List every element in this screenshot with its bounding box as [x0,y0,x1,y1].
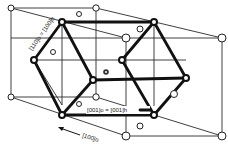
label-diag-left: [110]o = [100]h [28,16,56,52]
label-bottom-arrow: [100]o [82,132,100,143]
crystal-lattice-diagram: [110]o = [100]h [001]o = [001]h [100]o [0,0,228,151]
arrow-100-icon [58,127,80,135]
label-center-right: [001]o = [001]h [87,107,127,113]
